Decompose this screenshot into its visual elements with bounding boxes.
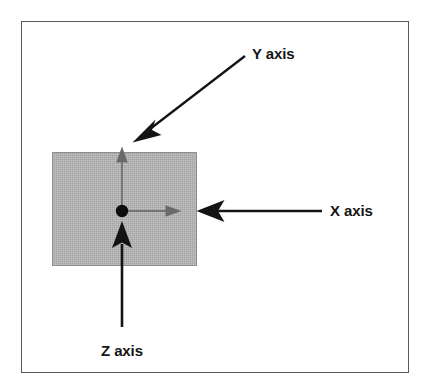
x-axis-pointer-arrow [197,200,323,222]
label-y-axis: Y axis [252,46,295,61]
y-axis-arrow [116,147,128,212]
x-axis-arrow [122,205,182,217]
diagram-canvas: Y axis X axis Z axis [0,0,428,391]
label-z-axis: Z axis [101,343,143,358]
vector-layer [0,0,428,391]
y-axis-pointer-arrow [133,56,246,143]
z-axis-pointer-arrow [112,221,132,327]
label-x-axis: X axis [330,203,373,218]
origin-point [116,205,128,217]
